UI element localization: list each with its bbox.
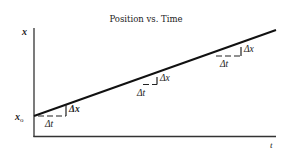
- x-axis-label: t: [270, 140, 273, 150]
- position-time-diagram: x t xo Δx Δt Δx Δt Δx Δt: [0, 0, 292, 155]
- x0-label: xo: [14, 111, 24, 124]
- slope-triangle-3: [216, 47, 241, 56]
- delta-x-label-3: Δx: [243, 44, 255, 54]
- delta-t-label-3: Δt: [219, 59, 229, 69]
- delta-x-label-1: Δx: [68, 104, 80, 114]
- delta-t-label-2: Δt: [136, 88, 146, 98]
- delta-t-label-1: Δt: [44, 119, 54, 129]
- y-axis-label: x: [21, 26, 27, 37]
- x0-sub: o: [20, 116, 24, 124]
- delta-x-label-2: Δx: [159, 73, 171, 83]
- slope-triangle-2: [143, 77, 157, 85]
